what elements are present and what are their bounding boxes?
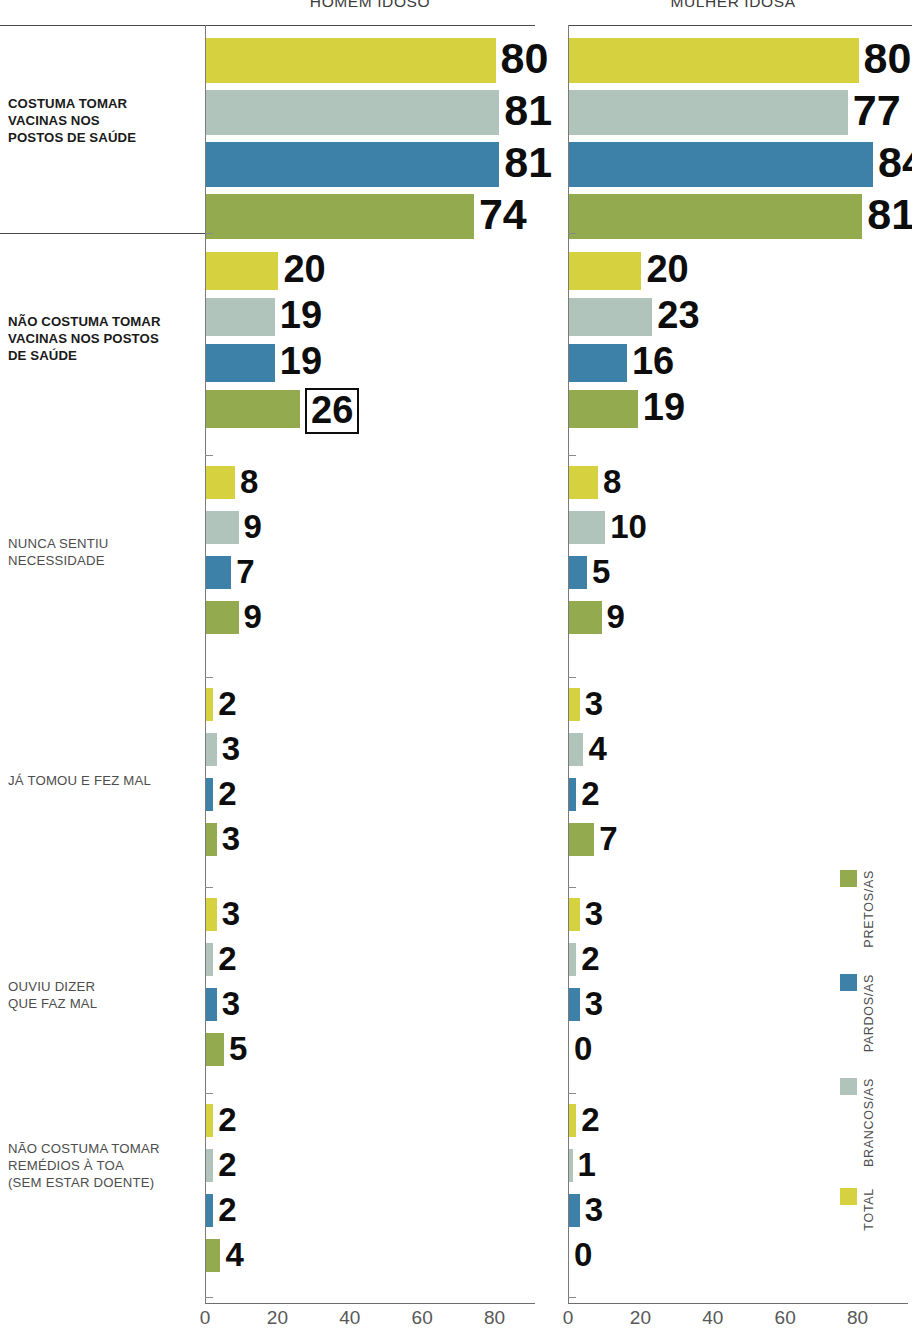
- bar-mulher-idosa-g3-pardos-as: [569, 556, 587, 589]
- x-axis-right: [568, 1303, 908, 1304]
- axis-group-tick: [205, 455, 213, 456]
- bar-homem-idoso-g4-pretos-as: [206, 823, 217, 856]
- bar-homem-idoso-g4-brancos-as: [206, 733, 217, 766]
- bar-value-label: 9: [244, 600, 262, 633]
- panel-title-mulher-idosa: MULHER IDOSA: [568, 0, 898, 11]
- category-label-line: NUNCA SENTIU: [8, 535, 198, 552]
- bar-value-label: 2: [581, 942, 599, 975]
- bar-value-label: 7: [599, 822, 617, 855]
- bar-value-label: 19: [280, 296, 322, 334]
- top-rule-right: [568, 25, 912, 26]
- category-label-line: REMÉDIOS À TOA: [8, 1157, 198, 1174]
- category-label-1: COSTUMA TOMARVACINAS NOSPOSTOS DE SAÚDE: [8, 95, 198, 146]
- x-tick-label: 20: [630, 1307, 651, 1329]
- bar-value-label: 3: [222, 732, 240, 765]
- bar-homem-idoso-g6-pretos-as: [206, 1239, 220, 1272]
- category-label-line: QUE FAZ MAL: [8, 995, 198, 1012]
- bar-mulher-idosa-g6-pardos-as: [569, 1194, 580, 1227]
- bar-value-label: 20: [283, 250, 325, 288]
- axis-group-tick: [205, 677, 213, 678]
- bar-mulher-idosa-g5-total: [569, 898, 580, 931]
- bar-value-label: 2: [218, 1148, 236, 1181]
- bar-value-label: 0: [574, 1238, 592, 1271]
- bar-mulher-idosa-g1-brancos-as: [569, 90, 848, 135]
- category-label-line: NÃO COSTUMA TOMAR: [8, 313, 198, 330]
- x-tick-label: 80: [847, 1307, 868, 1329]
- bar-value-label: 3: [222, 987, 240, 1020]
- bar-mulher-idosa-g1-pardos-as: [569, 142, 873, 187]
- bar-homem-idoso-g2-brancos-as: [206, 298, 275, 336]
- axis-group-tick: [205, 233, 213, 234]
- legend-swatch-icon: [840, 974, 857, 991]
- category-label-line: COSTUMA TOMAR: [8, 95, 198, 112]
- x-tick-label: 40: [339, 1307, 360, 1329]
- bar-value-label: 5: [592, 555, 610, 588]
- bar-homem-idoso-g1-pretos-as: [206, 194, 474, 239]
- x-tick-label: 60: [775, 1307, 796, 1329]
- bar-value-label: 74: [479, 193, 527, 236]
- bar-homem-idoso-g6-brancos-as: [206, 1149, 213, 1182]
- bar-value-label: 2: [218, 1193, 236, 1226]
- x-tick-label: 80: [484, 1307, 505, 1329]
- bar-homem-idoso-g5-pardos-as: [206, 988, 217, 1021]
- bar-homem-idoso-g1-total: [206, 38, 496, 83]
- bar-homem-idoso-g6-total: [206, 1104, 213, 1137]
- bar-value-label: 19: [280, 342, 322, 380]
- legend: PRETOS/ASPARDOS/ASBRANCOS/ASTOTAL: [838, 870, 908, 1270]
- bar-value-label: 81: [504, 141, 552, 184]
- x-tick-label: 60: [412, 1307, 433, 1329]
- legend-label: PARDOS/AS: [862, 974, 876, 1052]
- category-label-3: NUNCA SENTIUNECESSIDADE: [8, 535, 198, 569]
- bar-value-label: 81: [504, 89, 552, 132]
- bar-mulher-idosa-g6-total: [569, 1104, 576, 1137]
- bar-value-label: 2: [218, 687, 236, 720]
- x-tick-label: 0: [563, 1307, 574, 1329]
- category-label-line: DE SAÚDE: [8, 347, 198, 364]
- bar-value-label: 4: [588, 732, 606, 765]
- bar-mulher-idosa-g4-brancos-as: [569, 733, 583, 766]
- bar-mulher-idosa-g2-total: [569, 252, 641, 290]
- bar-value-label: 3: [585, 1193, 603, 1226]
- bar-value-label: 84: [878, 141, 912, 184]
- bar-homem-idoso-g5-pretos-as: [206, 1033, 224, 1066]
- category-label-5: OUVIU DIZERQUE FAZ MAL: [8, 978, 198, 1012]
- bar-value-label: 80: [864, 37, 912, 80]
- category-label-2: NÃO COSTUMA TOMARVACINAS NOS POSTOSDE SA…: [8, 313, 198, 364]
- bar-homem-idoso-g1-pardos-as: [206, 142, 499, 187]
- axis-group-tick: [568, 1093, 576, 1094]
- bar-mulher-idosa-g1-pretos-as: [569, 194, 862, 239]
- bar-value-label: 80: [501, 37, 549, 80]
- bar-mulher-idosa-g1-total: [569, 38, 859, 83]
- bar-value-label: 8: [603, 465, 621, 498]
- x-tick-label: 40: [702, 1307, 723, 1329]
- bar-value-label: 5: [229, 1032, 247, 1065]
- legend-swatch-icon: [840, 1078, 857, 1095]
- bar-homem-idoso-g3-pretos-as: [206, 601, 239, 634]
- bar-mulher-idosa-g5-pardos-as: [569, 988, 580, 1021]
- bar-homem-idoso-g5-brancos-as: [206, 943, 213, 976]
- axis-group-tick: [205, 1093, 213, 1094]
- legend-label: TOTAL: [862, 1188, 876, 1231]
- category-label-4: JÁ TOMOU E FEZ MAL: [8, 772, 198, 789]
- x-axis-left: [205, 1303, 535, 1304]
- bar-value-label: 77: [853, 89, 901, 132]
- legend-label: BRANCOS/AS: [862, 1078, 876, 1167]
- bar-value-label: 2: [218, 942, 236, 975]
- x-tick-label: 0: [200, 1307, 211, 1329]
- category-label-line: JÁ TOMOU E FEZ MAL: [8, 772, 198, 789]
- bar-value-label: 0: [574, 1032, 592, 1065]
- bar-mulher-idosa-g2-brancos-as: [569, 298, 652, 336]
- bar-value-label: 3: [222, 822, 240, 855]
- bar-homem-idoso-g2-total: [206, 252, 278, 290]
- bar-value-label: 26: [305, 388, 359, 434]
- bar-value-label: 7: [236, 555, 254, 588]
- axis-group-tick: [205, 887, 213, 888]
- panel-title-homem-idoso: HOMEM IDOSO: [205, 0, 535, 11]
- category-label-line: NECESSIDADE: [8, 552, 198, 569]
- bar-value-label: 23: [657, 296, 699, 334]
- legend-swatch-icon: [840, 1188, 857, 1205]
- bar-value-label: 3: [585, 987, 603, 1020]
- bar-homem-idoso-g3-pardos-as: [206, 556, 231, 589]
- category-label-line: POSTOS DE SAÚDE: [8, 129, 198, 146]
- axis-group-tick: [568, 677, 576, 678]
